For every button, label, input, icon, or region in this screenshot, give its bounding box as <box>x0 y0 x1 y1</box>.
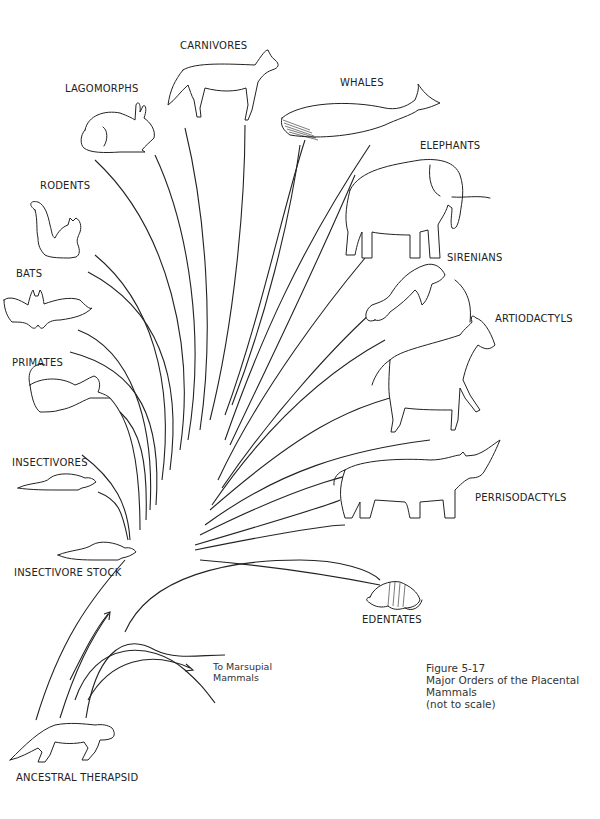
figure-number: Figure 5-17 <box>426 662 579 674</box>
lagomorph-rabbit-icon <box>81 103 154 153</box>
label-sirenians: SIRENIANS <box>447 252 502 263</box>
ancestral-therapsid-icon <box>10 723 114 762</box>
marsupial-branch-label: To Marsupial Mammals <box>213 661 272 683</box>
bat-icon <box>4 290 92 328</box>
primate-icon <box>29 364 110 412</box>
label-insectivore-stock: INSECTIVORE STOCK <box>14 567 121 578</box>
trunk-lines <box>36 560 380 720</box>
label-whales: WHALES <box>340 77 384 88</box>
label-edentates: EDENTATES <box>362 614 422 625</box>
insectivore-shrew-icon <box>18 474 96 490</box>
label-artiodactyls: ARTIODACTYLS <box>495 313 573 324</box>
label-perrisodactyls: PERRISODACTYLS <box>475 492 567 503</box>
sirenian-manatee-icon <box>366 264 445 321</box>
edentate-armadillo-icon <box>367 582 422 610</box>
figure-title-line1: Major Orders of the Placental <box>426 674 579 686</box>
label-primates: PRIMATES <box>12 357 63 368</box>
figure-note: (not to scale) <box>426 698 579 710</box>
label-lagomorphs: LAGOMORPHS <box>65 83 138 94</box>
label-carnivores: CARNIVORES <box>180 40 247 51</box>
perrisodactyl-rhino-icon <box>334 440 500 518</box>
left-fan-branches <box>70 125 305 540</box>
rodent-squirrel-icon <box>31 202 81 258</box>
insectivore-stock-icon <box>58 542 136 560</box>
placental-mammals-diagram: CARNIVORES LAGOMORPHS WHALES ELEPHANTS R… <box>0 0 600 819</box>
figure-caption: Figure 5-17 Major Orders of the Placenta… <box>426 662 579 710</box>
label-bats: BATS <box>16 268 42 279</box>
figure-title-line2: Mammals <box>426 686 579 698</box>
whale-icon <box>281 84 440 140</box>
marsupial-line1: To Marsupial <box>213 661 272 672</box>
carnivore-dog-icon <box>168 50 278 120</box>
marsupial-line2: Mammals <box>213 672 272 683</box>
label-insectivores: INSECTIVORES <box>12 457 88 468</box>
label-rodents: RODENTS <box>40 180 90 191</box>
elephant-icon <box>346 160 490 258</box>
label-elephants: ELEPHANTS <box>420 140 480 151</box>
label-ancestral-therapsid: ANCESTRAL THERAPSID <box>16 772 138 783</box>
